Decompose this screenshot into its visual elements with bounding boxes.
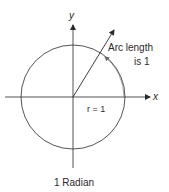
radius-ray [73, 30, 114, 97]
arc-length-label-line2: is 1 [134, 57, 150, 67]
x-axis-label: x [153, 92, 158, 102]
caption: 1 Radian [54, 178, 94, 188]
y-axis-label: y [69, 11, 74, 21]
radius-label: r = 1 [87, 104, 105, 114]
unit-circle-diagram [0, 0, 169, 192]
arc-length-label-line1: Arc length [108, 43, 153, 53]
